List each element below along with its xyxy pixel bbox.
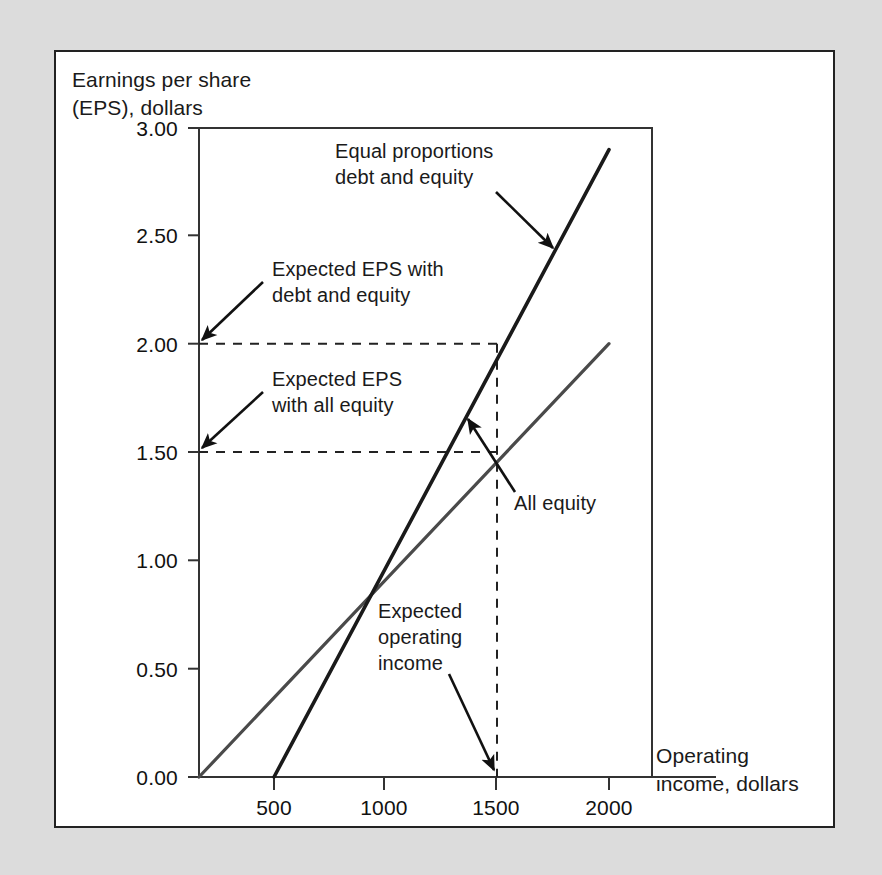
arrow-expected-operating-income [449, 674, 494, 770]
ytick-label-2.00: 2.00 [88, 333, 178, 357]
ytick-label-1.00: 1.00 [88, 549, 178, 573]
xtick-label-500: 500 [229, 796, 319, 820]
arrow-expected-eps-all-equity [202, 392, 263, 448]
arrow-expected-eps-debt-equity [202, 282, 263, 340]
xtick-label-2000: 2000 [564, 796, 654, 820]
figure-card: Earnings per share (EPS), dollars Operat… [54, 50, 835, 828]
xtick-label-1500: 1500 [451, 796, 541, 820]
series-all-equity [199, 344, 609, 777]
y-axis-ticks [188, 128, 199, 777]
ytick-label-0.50: 0.50 [88, 658, 178, 682]
arrow-equal-proportions [496, 192, 553, 248]
expected-eps-all-equity-annotation: Expected EPS with all equity [272, 366, 402, 418]
all-equity-annotation: All equity [514, 490, 596, 516]
ytick-label-0.00: 0.00 [88, 766, 178, 790]
equal-proportions-annotation: Equal proportions debt and equity [335, 138, 493, 190]
ytick-label-1.50: 1.50 [88, 441, 178, 465]
ytick-label-3.00: 3.00 [88, 117, 178, 141]
expected-operating-income-annotation: Expected operating income [378, 598, 462, 676]
series-debt-and-equity [274, 150, 609, 777]
arrow-all-equity [468, 419, 515, 492]
x-axis-ticks [274, 777, 609, 790]
ytick-label-2.50: 2.50 [88, 224, 178, 248]
expected-eps-debt-equity-annotation: Expected EPS with debt and equity [272, 256, 444, 308]
xtick-label-1000: 1000 [339, 796, 429, 820]
